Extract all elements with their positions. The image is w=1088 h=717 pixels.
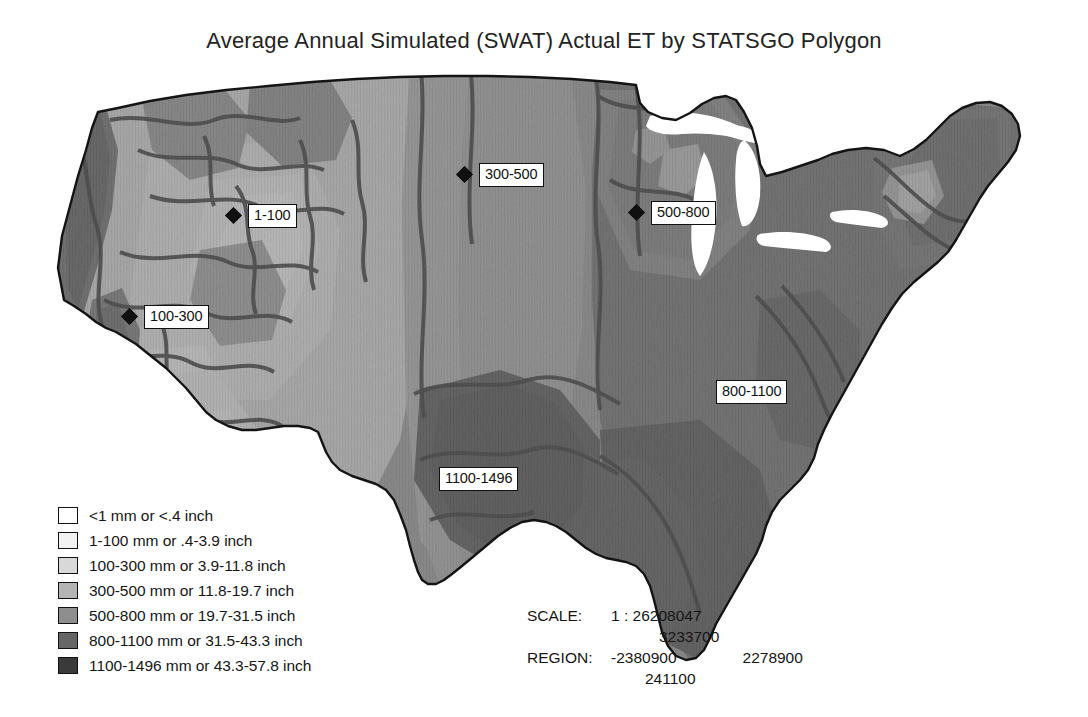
map-label-text: 1100-1496 — [439, 467, 518, 491]
region-line: REGION: -2380900 2278900 — [527, 647, 803, 668]
legend-swatch-icon — [58, 657, 78, 674]
scale-value: 1 : 26208047 — [611, 605, 702, 626]
map-label-text: 300-500 — [479, 163, 544, 187]
region-left-value: -2380900 — [611, 647, 677, 668]
legend-label: 1-100 mm or .4-3.9 inch — [89, 532, 252, 550]
legend-swatch-icon — [58, 632, 78, 649]
page-title: Average Annual Simulated (SWAT) Actual E… — [0, 28, 1088, 54]
legend-row: 1100-1496 mm or 43.3-57.8 inch — [58, 653, 311, 678]
legend-row: 1-100 mm or .4-3.9 inch — [58, 528, 311, 553]
legend-swatch-icon — [58, 607, 78, 624]
region-key: REGION: — [527, 647, 611, 668]
legend-swatch-icon — [58, 507, 78, 524]
map-label-1100-1496[interactable]: 1100-1496 — [439, 467, 518, 491]
region-bottom-value: 241100 — [527, 668, 803, 689]
map-page: Average Annual Simulated (SWAT) Actual E… — [0, 0, 1088, 717]
legend-row: 500-800 mm or 19.7-31.5 inch — [58, 603, 311, 628]
map-label-300-500[interactable]: 300-500 — [459, 163, 544, 187]
scale-line: SCALE: 1 : 26208047 — [527, 605, 803, 626]
legend-row: 800-1100 mm or 31.5-43.3 inch — [58, 628, 311, 653]
region-top-value: 3233700 — [527, 626, 803, 647]
legend-label: 500-800 mm or 19.7-31.5 inch — [89, 607, 295, 625]
legend-label: 100-300 mm or 3.9-11.8 inch — [89, 557, 286, 575]
legend-label: <1 mm or <.4 inch — [89, 507, 213, 525]
legend-swatch-icon — [58, 532, 78, 549]
legend-label: 800-1100 mm or 31.5-43.3 inch — [89, 632, 303, 650]
legend-swatch-icon — [58, 557, 78, 574]
label-marker-diamond-icon — [629, 205, 645, 221]
legend-label: 1100-1496 mm or 43.3-57.8 inch — [89, 657, 311, 675]
label-marker-diamond-icon — [226, 208, 242, 224]
legend-swatch-icon — [58, 582, 78, 599]
scale-region-block: SCALE: 1 : 26208047 3233700 REGION: -238… — [527, 605, 803, 689]
map-label-text: 500-800 — [651, 201, 716, 225]
legend-row: 100-300 mm or 3.9-11.8 inch — [58, 553, 311, 578]
legend-row: <1 mm or <.4 inch — [58, 503, 311, 528]
map-label-500-800[interactable]: 500-800 — [631, 201, 716, 225]
legend-label: 300-500 mm or 11.8-19.7 inch — [89, 582, 294, 600]
map-label-1-100[interactable]: 1-100 — [228, 204, 297, 228]
map-label-text: 1-100 — [248, 204, 297, 228]
map-label-text: 800-1100 — [716, 380, 787, 404]
label-marker-diamond-icon — [457, 167, 473, 183]
map-label-800-1100[interactable]: 800-1100 — [716, 380, 787, 404]
label-marker-diamond-icon — [122, 309, 138, 325]
region-spacer — [677, 647, 743, 668]
region-right-value: 2278900 — [743, 647, 803, 668]
map-label-100-300[interactable]: 100-300 — [124, 305, 209, 329]
et-class-legend: <1 mm or <.4 inch 1-100 mm or .4-3.9 inc… — [58, 503, 311, 678]
legend-row: 300-500 mm or 11.8-19.7 inch — [58, 578, 311, 603]
scale-key: SCALE: — [527, 605, 611, 626]
map-label-text: 100-300 — [144, 305, 209, 329]
